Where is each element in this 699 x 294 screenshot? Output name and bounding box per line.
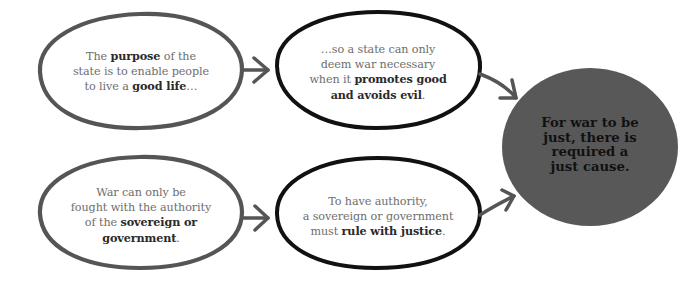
text-span: to live a <box>85 80 133 93</box>
text-line: To have authority, <box>288 195 468 210</box>
emphasis-rule-with-justice: rule with justice <box>342 224 443 238</box>
text-line: a sovereign or government <box>288 210 468 225</box>
text-line: state is to enable people <box>50 65 232 80</box>
text-line: deem war necessary <box>288 58 468 73</box>
text-span: … <box>186 80 197 93</box>
text-span: must <box>310 225 341 238</box>
node-war-necessary-text: …so a state can only deem war necessary … <box>288 43 468 103</box>
text-span: of the <box>85 216 121 229</box>
emphasis-promotes-good: promotes good <box>354 72 446 86</box>
arrow-justice-to-conclusion-icon <box>480 190 514 215</box>
emphasis-government: government <box>102 231 176 245</box>
text-line: The purpose of the <box>50 49 232 65</box>
node-authority-text: War can only be fought with the authorit… <box>50 186 232 246</box>
node-justice-text: To have authority, a sovereign or govern… <box>288 195 468 240</box>
text-line: must rule with justice. <box>288 224 468 240</box>
text-span: when it <box>309 73 354 86</box>
text-span: . <box>442 225 445 238</box>
emphasis-good-life: good life <box>132 79 186 93</box>
text-line: government. <box>50 231 232 247</box>
text-span: . <box>176 232 179 245</box>
text-line: to live a good life… <box>50 79 232 95</box>
emphasis-purpose: purpose <box>110 49 160 63</box>
arrow-authority-to-justice-icon <box>242 206 268 230</box>
arrow-purpose-to-war-icon <box>242 58 268 82</box>
just-war-diagram: The purpose of the state is to enable pe… <box>0 0 699 294</box>
text-line: and avoids evil. <box>288 88 468 104</box>
text-line: of the sovereign or <box>50 215 232 231</box>
text-span: The <box>86 50 110 63</box>
text-line: War can only be <box>50 186 232 201</box>
text-line: just, there is <box>520 131 660 146</box>
text-span: of the <box>160 50 196 63</box>
text-line: fought with the authority <box>50 201 232 216</box>
node-purpose-text: The purpose of the state is to enable pe… <box>50 49 232 95</box>
arrow-war-to-conclusion-icon <box>480 74 516 98</box>
text-line: …so a state can only <box>288 43 468 58</box>
text-line: For war to be <box>520 116 660 131</box>
emphasis-sovereign: sovereign or <box>120 215 197 229</box>
text-span: . <box>422 89 425 102</box>
node-conclusion-text: For war to be just, there is required a … <box>520 116 660 174</box>
text-line: when it promotes good <box>288 72 468 88</box>
text-line: required a <box>520 145 660 160</box>
emphasis-avoids-evil: and avoids evil <box>331 88 422 102</box>
text-line: just cause. <box>520 160 660 175</box>
